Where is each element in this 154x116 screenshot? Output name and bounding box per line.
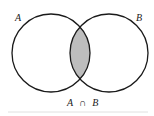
caption-set-a: A [66,97,74,108]
venn-diagram: A B A ∩ B [0,0,154,116]
caption-set-b: B [92,97,98,108]
intersection-symbol: ∩ [79,97,86,108]
set-a-label: A [14,12,22,23]
caption: A ∩ B [66,92,98,109]
set-b-label: B [136,12,142,23]
